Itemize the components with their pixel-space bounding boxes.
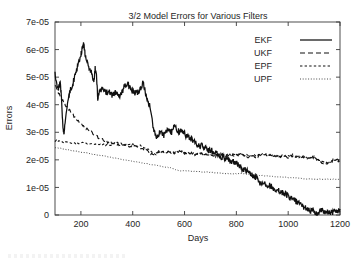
y-axis-title: Errors [4, 105, 14, 130]
legend-label-upf: UPF [254, 74, 273, 84]
chart-title: 3/2 Model Errors for Various Filters [129, 11, 268, 21]
y-tick-label: 3e-05 [26, 127, 49, 137]
y-tick-label: 0 [44, 210, 49, 220]
page-edge-artifact [8, 254, 128, 258]
legend-label-ukf: UKF [254, 48, 273, 58]
x-tick-label: 400 [125, 219, 140, 229]
y-tick-label: 6e-05 [26, 45, 49, 55]
legend-label-epf: EPF [254, 61, 272, 71]
y-tick-label: 1e-05 [26, 183, 49, 193]
y-tick-label: 7e-05 [26, 17, 49, 27]
x-tick-label: 1000 [278, 219, 298, 229]
x-axis-title: Days [188, 233, 209, 243]
x-tick-label: 800 [229, 219, 244, 229]
x-tick-label: 200 [73, 219, 88, 229]
x-tick-label: 1200 [330, 219, 350, 229]
legend-label-ekf: EKF [254, 35, 272, 45]
y-tick-label: 5e-05 [26, 72, 49, 82]
x-tick-label: 600 [177, 219, 192, 229]
chart-figure: 3/2 Model Errors for Various Filters 01e… [0, 0, 357, 260]
y-tick-label: 2e-05 [26, 155, 49, 165]
y-tick-label: 4e-05 [26, 100, 49, 110]
